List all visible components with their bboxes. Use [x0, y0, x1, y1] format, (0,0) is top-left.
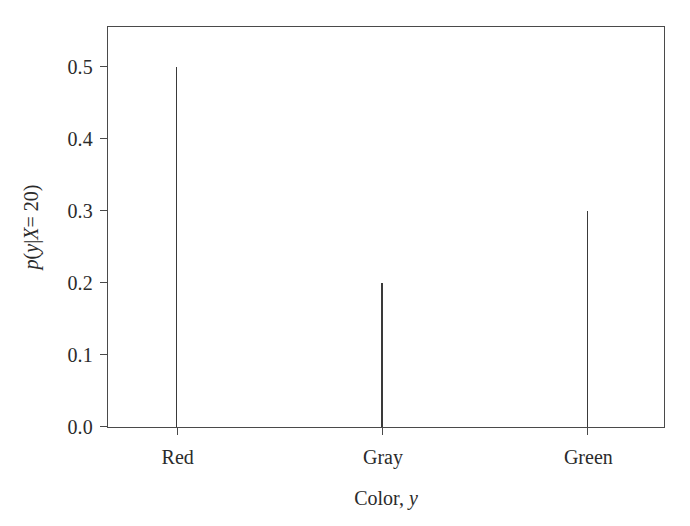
- stem-bar: [176, 67, 178, 427]
- x-axis-tick: Red: [177, 427, 178, 435]
- y-axis-tick-label: 0.2: [67, 272, 93, 295]
- y-axis-tick-label: 0.3: [67, 199, 93, 222]
- y-axis-tick: 0.1: [100, 354, 108, 355]
- x-axis-title-text: Color,: [354, 487, 404, 509]
- y-axis-title-y: y: [20, 244, 43, 253]
- x-axis-tick: Gray: [382, 427, 383, 435]
- y-axis-title-p: p: [20, 259, 43, 269]
- x-axis-tick-label: Red: [162, 446, 194, 469]
- probability-stem-chart: 0.00.10.20.30.40.5RedGrayGreen p(y|X = 2…: [0, 0, 690, 526]
- y-axis-tick-label: 0.5: [67, 55, 93, 78]
- stem-bar: [381, 283, 383, 427]
- y-axis-title-open-paren: (: [20, 253, 43, 260]
- x-axis-title-var: y: [409, 487, 418, 509]
- x-axis-tick-label: Green: [564, 446, 613, 469]
- y-axis-tick-label: 0.4: [67, 127, 93, 150]
- y-axis-tick-label: 0.1: [67, 344, 93, 367]
- y-axis-tick: 0.0: [100, 426, 108, 427]
- y-axis-tick-label: 0.0: [67, 416, 93, 439]
- y-axis-title-value: = 20): [20, 185, 43, 228]
- x-axis-title: Color, y: [107, 487, 665, 510]
- x-axis-tick-label: Gray: [363, 446, 403, 469]
- y-axis-tick: 0.5: [100, 66, 108, 67]
- plot-frame: 0.00.10.20.30.40.5RedGrayGreen: [107, 26, 665, 428]
- y-axis-tick: 0.2: [100, 282, 108, 283]
- y-axis-title-X: X: [20, 228, 43, 240]
- stem-bar: [587, 211, 589, 427]
- y-axis-tick: 0.3: [100, 210, 108, 211]
- y-axis-title: p(y|X = 20): [14, 26, 48, 428]
- y-axis-tick: 0.4: [100, 138, 108, 139]
- x-axis-tick: Green: [587, 427, 588, 435]
- y-axis-title-bar: |: [20, 240, 43, 244]
